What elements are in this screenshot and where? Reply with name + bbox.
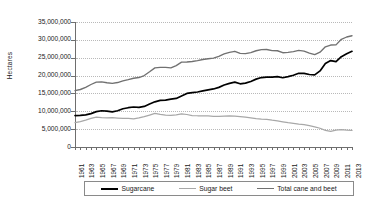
x-axis-tick-label: 1989: [227, 164, 234, 178]
series-line-total-cane-and-beet: [75, 36, 352, 91]
x-axis-tick-label: 1995: [259, 164, 266, 178]
x-axis-tick-label: 1967: [110, 164, 117, 178]
x-axis-tick-label: 2007: [323, 164, 330, 178]
chart-legend: Sugarcane Sugar beet Total cane and beet: [84, 181, 354, 196]
x-axis-tick-label: 2011: [344, 164, 351, 178]
line-chart: Hectares 35,000,00030,000,00025,000,0002…: [0, 0, 369, 206]
x-axis-tick-label: 1987: [216, 164, 223, 178]
x-axis-tick-label: 1971: [131, 164, 138, 178]
y-axis-tick-label: 30,000,000: [38, 35, 71, 42]
y-axis-tick-label: 5,000,000: [42, 125, 71, 132]
x-axis-tick-label: 1985: [205, 164, 212, 178]
x-axis-tick-label: 1975: [152, 164, 159, 178]
y-axis-title: Hectares: [6, 36, 13, 96]
legend-item-total-cane-and-beet: Total cane and beet: [257, 185, 336, 192]
x-axis-tick-label: 2009: [333, 164, 340, 178]
x-axis-tick-label: 1999: [280, 164, 287, 178]
x-axis-tick-label: 2001: [291, 164, 298, 178]
x-axis-tick-label: 1963: [88, 164, 95, 178]
x-axis-tick-label: 1981: [184, 164, 191, 178]
legend-swatch-sugarcane: [101, 188, 118, 190]
x-axis-tick-label: 1997: [269, 164, 276, 178]
y-axis-tick-label: 10,000,000: [38, 107, 71, 114]
legend-swatch-total-cane-and-beet: [257, 188, 274, 189]
x-axis-tick-label: 1977: [163, 164, 170, 178]
x-axis-tick-label: 1991: [237, 164, 244, 178]
legend-item-sugar-beet: Sugar beet: [179, 185, 232, 192]
x-axis-tick-label: 2003: [301, 164, 308, 178]
legend-label-total-cane-and-beet: Total cane and beet: [277, 185, 336, 192]
y-axis-tick-label: 20,000,000: [38, 71, 71, 78]
x-axis-tick-label: 1993: [248, 164, 255, 178]
legend-label-sugarcane: Sugarcane: [121, 185, 154, 192]
x-axis-tick-label: 1983: [195, 164, 202, 178]
x-axis-tick-label: 2013: [355, 164, 362, 178]
series-layer: [75, 22, 352, 147]
x-axis-tick-label: 1969: [120, 164, 127, 178]
x-axis-labels: 1961196319651967196919711973197519771979…: [0, 150, 369, 182]
x-axis-tick-label: 1973: [142, 164, 149, 178]
y-axis-tick-label: 25,000,000: [38, 53, 71, 60]
legend-swatch-sugar-beet: [179, 188, 196, 189]
series-line-sugarcane: [75, 51, 352, 115]
legend-item-sugarcane: Sugarcane: [101, 185, 154, 192]
series-line-sugar-beet: [75, 113, 352, 131]
y-axis-tick-label: 0: [67, 143, 71, 150]
legend-label-sugar-beet: Sugar beet: [199, 185, 232, 192]
y-axis-tick-label: 15,000,000: [38, 89, 71, 96]
y-axis-tick-label: 35,000,000: [38, 18, 71, 25]
x-axis-tick-label: 1979: [173, 164, 180, 178]
x-axis-tick-label: 1965: [99, 164, 106, 178]
x-axis-tick-label: 1961: [78, 164, 85, 178]
x-axis-tick-label: 2005: [312, 164, 319, 178]
